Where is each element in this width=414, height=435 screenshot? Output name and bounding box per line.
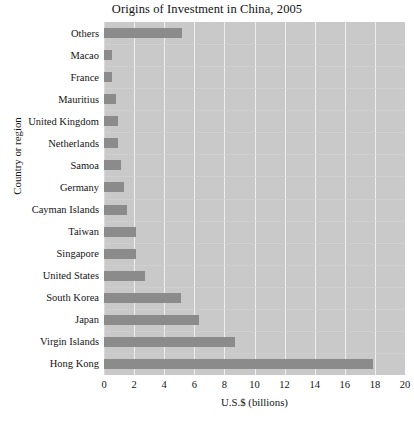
x-axis-label: 4 (149, 378, 179, 391)
y-axis-label: Others (0, 28, 99, 39)
y-axis-label: Taiwan (0, 226, 99, 237)
gridline-y-11 (104, 265, 405, 266)
x-axis-label: 10 (240, 378, 270, 391)
y-axis-label: Hong Kong (0, 358, 99, 369)
bar (104, 182, 124, 192)
gridline-y-10 (104, 243, 405, 244)
x-axis-label: 6 (179, 378, 209, 391)
gridline-y-15 (104, 353, 405, 354)
gridline-y-1 (104, 44, 405, 45)
x-axis-tick-labels: 02468101214161820 (0, 378, 414, 394)
bar (104, 116, 118, 126)
gridline-y-7 (104, 176, 405, 177)
y-axis-label: United States (0, 270, 99, 281)
y-axis-title: Country or region (11, 91, 23, 221)
x-axis-label: 2 (119, 378, 149, 391)
plot-area (104, 22, 405, 375)
gridline-y-13 (104, 309, 405, 310)
x-axis-label: 14 (300, 378, 330, 391)
gridline-y-2 (104, 66, 405, 67)
bar (104, 205, 127, 215)
y-axis-label: Macao (0, 50, 99, 61)
bar (104, 315, 199, 325)
y-axis-label: South Korea (0, 292, 99, 303)
bar (104, 94, 116, 104)
bar (104, 359, 373, 369)
gridline-y-4 (104, 110, 405, 111)
gridline-y-6 (104, 154, 405, 155)
y-axis-label: Japan (0, 314, 99, 325)
bar (104, 72, 112, 82)
gridline-y-8 (104, 199, 405, 200)
gridline-y-12 (104, 287, 405, 288)
y-axis-label: France (0, 72, 99, 83)
x-axis-label: 16 (330, 378, 360, 391)
bar (104, 160, 121, 170)
gridline-y-9 (104, 221, 405, 222)
bar (104, 227, 136, 237)
gridline-y-14 (104, 331, 405, 332)
bar (104, 249, 136, 259)
bar (104, 337, 235, 347)
bar (104, 138, 118, 148)
bar (104, 293, 181, 303)
bar (104, 28, 182, 38)
chart-title: Origins of Investment in China, 2005 (0, 2, 414, 17)
bar-chart: Origins of Investment in China, 2005 Oth… (0, 0, 414, 435)
x-axis-label: 20 (390, 378, 414, 391)
x-axis-label: 8 (209, 378, 239, 391)
bar (104, 271, 145, 281)
y-axis-label: Virgin Islands (0, 336, 99, 347)
x-axis-label: 0 (89, 378, 119, 391)
x-axis-title: U.S.$ (billions) (104, 396, 405, 408)
y-axis-label: Singapore (0, 248, 99, 259)
bar (104, 50, 112, 60)
x-axis-label: 12 (270, 378, 300, 391)
gridline-y-5 (104, 132, 405, 133)
x-axis-label: 18 (360, 378, 390, 391)
gridline-y-3 (104, 88, 405, 89)
